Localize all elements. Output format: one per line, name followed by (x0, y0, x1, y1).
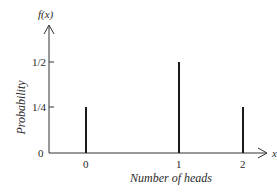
xtick-label-1: 1 (176, 158, 182, 170)
x-axis-label: Number of heads (130, 172, 212, 184)
ytick-label-half: 1/2 (32, 56, 46, 68)
xtick-label-0: 0 (83, 158, 89, 170)
y-axis-name: f(x) (38, 8, 53, 20)
ytick-label-zero: 0 (38, 147, 44, 159)
chart-canvas (0, 0, 277, 192)
xtick-label-2: 2 (240, 158, 246, 170)
y-axis-label: Probability (14, 73, 29, 143)
x-axis-name: x (272, 147, 277, 159)
ytick-label-quarter: 1/4 (32, 101, 46, 113)
